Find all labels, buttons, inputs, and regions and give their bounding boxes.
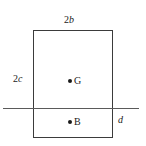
point-b-marker-icon [68,120,72,124]
dimension-label-draft: d [118,114,123,125]
point-g-label: G [74,76,81,86]
section-rectangle-outline [33,30,113,138]
dimension-label-top-width: 2b [64,14,74,25]
dimension-top-width-variable: b [69,14,74,25]
dimension-label-left-height: 2c [13,73,22,84]
dimension-draft-variable: d [118,114,123,125]
figure-canvas: G B 2b 2c d [0,0,146,146]
point-g-marker-icon [68,79,72,83]
point-b-label: B [74,117,81,127]
dimension-left-height-variable: c [18,73,22,84]
horizontal-reference-line [3,108,139,109]
